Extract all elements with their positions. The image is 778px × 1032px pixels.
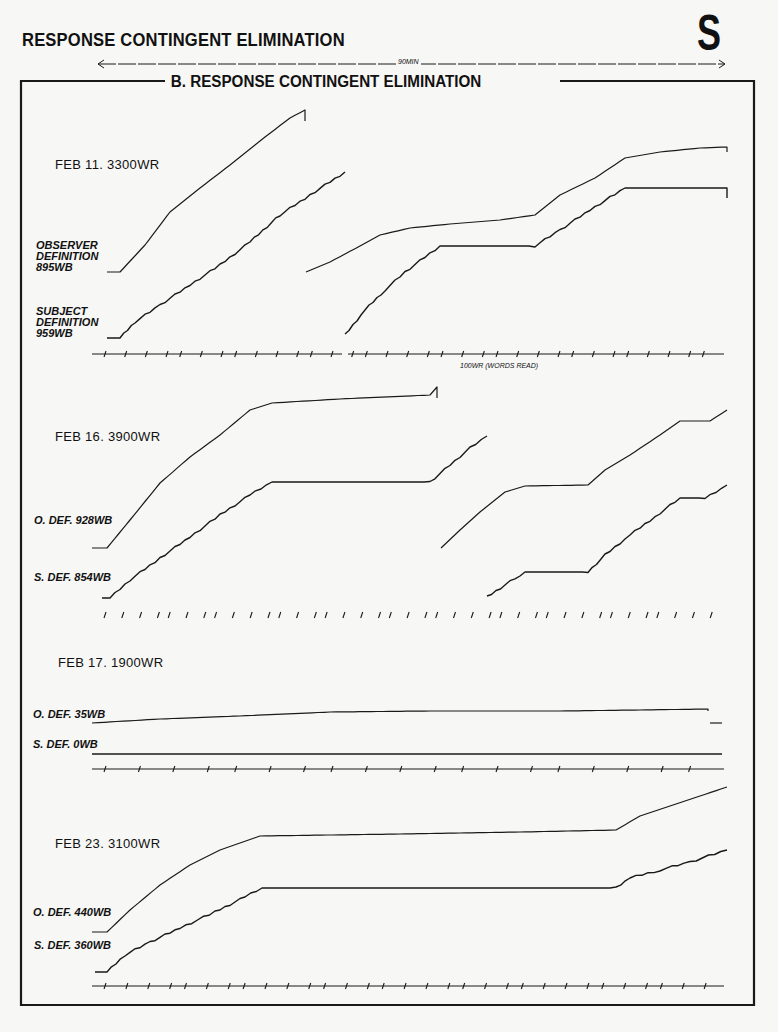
words-read-tick-axis <box>92 766 724 772</box>
subject-definition-label: S. DEF. 854WB <box>34 572 111 583</box>
subject-definition-label: S. DEF. 360WB <box>34 940 111 951</box>
label-line: 895WB <box>36 262 98 273</box>
session-date-label: FEB 17. 1900WR <box>58 655 163 670</box>
observer-record-line <box>92 387 437 548</box>
session-date-label: FEB 16. 3900WR <box>55 429 160 444</box>
axis-note: 100WR (WORDS READ) <box>460 362 538 369</box>
frame-title: B. RESPONSE CONTINGENT ELIMINATION <box>167 73 485 91</box>
figure-frame <box>21 81 754 1005</box>
observer-definition-label: O. DEF. 928WB <box>34 515 112 526</box>
tick-axes-layer <box>92 351 724 989</box>
observer-definition-label: OBSERVER DEFINITION 895WB <box>36 240 98 273</box>
subject-definition-label: SUBJECT DEFINITION 959WB <box>36 306 98 339</box>
subject-record-line <box>95 850 727 972</box>
subject-record-line <box>487 485 727 596</box>
words-read-tick-axis <box>92 983 724 989</box>
cumulative-record-chart <box>0 0 778 1032</box>
label-line: 959WB <box>36 328 98 339</box>
words-read-tick-axis <box>104 612 712 618</box>
session-date-label: FEB 11. 3300WR <box>55 157 159 172</box>
subject-record-line <box>345 188 727 334</box>
observer-record-line <box>441 410 727 548</box>
subject-definition-label: S. DEF. 0WB <box>33 739 98 750</box>
words-read-tick-axis <box>92 351 724 357</box>
observer-record-line <box>306 147 727 272</box>
observer-record-line <box>107 110 305 272</box>
duration-label: 90MIN <box>396 58 421 65</box>
session-date-label: FEB 23. 3100WR <box>55 836 160 851</box>
records-layer <box>92 110 727 972</box>
observer-record-line <box>92 787 727 932</box>
observer-definition-label: O. DEF. 35WB <box>33 709 105 720</box>
subject-record-line <box>102 436 487 598</box>
subject-record-line <box>107 172 345 338</box>
observer-record-line <box>92 709 708 723</box>
observer-definition-label: O. DEF. 440WB <box>33 907 111 918</box>
